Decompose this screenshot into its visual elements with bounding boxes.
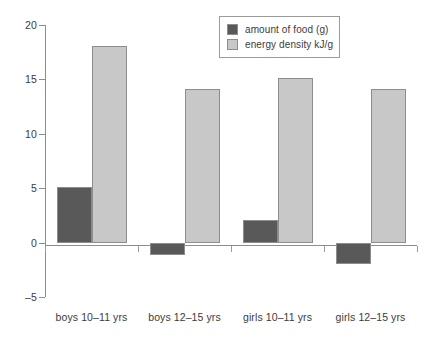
legend-label-energy-density: energy density kJ/g	[245, 39, 333, 50]
y-axis-tick-label: 5	[0, 183, 37, 193]
x-axis-tick	[417, 246, 418, 252]
legend-item-amount-of-food: amount of food (g)	[227, 22, 332, 37]
x-axis-category-label: girls 10–11 yrs	[231, 311, 324, 323]
y-axis-tick-label: 0	[0, 238, 37, 248]
legend-label-amount-of-food: amount of food (g)	[245, 24, 329, 35]
bar	[150, 243, 185, 255]
y-axis-tick-label: –5	[0, 292, 37, 302]
bar	[92, 46, 127, 243]
bar	[57, 187, 92, 242]
y-axis-tick-label: 10	[0, 129, 37, 139]
y-axis-tick-label: 20	[0, 20, 37, 30]
x-axis-category-label: girls 12–15 yrs	[324, 311, 417, 323]
chart-legend: amount of food (g) energy density kJ/g	[219, 16, 340, 58]
bar	[243, 220, 278, 243]
legend-item-energy-density: energy density kJ/g	[227, 37, 332, 52]
legend-swatch-energy-density	[227, 39, 238, 50]
bar	[336, 243, 371, 265]
bar	[278, 78, 313, 242]
bar	[371, 89, 406, 242]
bar	[185, 89, 220, 242]
x-axis-category-label: boys 12–15 yrs	[138, 311, 231, 323]
bar-chart: 20151050–5 boys 10–11 yrsboys 12–15 yrsg…	[0, 0, 432, 344]
y-axis-tick	[39, 297, 45, 298]
x-axis-category-label: boys 10–11 yrs	[45, 311, 138, 323]
y-axis-tick-label: 15	[0, 74, 37, 84]
legend-swatch-amount-of-food	[227, 24, 238, 35]
plot-area	[45, 25, 417, 297]
